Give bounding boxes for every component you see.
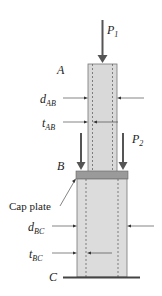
- dim-dab-right-arrowhead: [117, 97, 121, 100]
- label-tbc: tBC: [29, 248, 43, 265]
- dim-dbc-left-arrowhead: [73, 225, 77, 228]
- label-a-text: A: [57, 63, 64, 77]
- label-c-text: C: [49, 270, 57, 284]
- load-p1-arrowhead: [98, 55, 108, 63]
- load-p2-left-arrowhead: [77, 162, 86, 170]
- label-a: A: [57, 64, 64, 76]
- label-b-text: B: [57, 159, 64, 173]
- label-p1: P1: [107, 24, 118, 41]
- load-p2-right-arrowhead: [119, 162, 128, 170]
- cap-plate: [76, 171, 128, 179]
- cap-plate-leader-arrowhead: [72, 179, 76, 184]
- cap-plate-leader: [60, 180, 75, 206]
- label-tab-sub: AB: [45, 123, 55, 132]
- label-p1-sub: 1: [114, 30, 118, 39]
- label-c: C: [49, 271, 57, 283]
- label-dbc-sub: BC: [34, 227, 44, 236]
- label-cap-plate-text: Cap plate: [9, 200, 51, 212]
- label-p2: P2: [132, 133, 143, 150]
- dim-dbc-right-arrowhead: [127, 225, 131, 228]
- tube-bc: [77, 179, 127, 277]
- dim-tbc-left-arrowhead: [73, 252, 77, 255]
- label-dbc: dBC: [28, 221, 44, 238]
- label-p2-sub: 2: [139, 139, 143, 148]
- label-cap-plate: Cap plate: [9, 201, 51, 212]
- dim-dab-left-arrowhead: [84, 97, 88, 100]
- label-dab: dAB: [40, 93, 56, 110]
- label-b: B: [57, 160, 64, 172]
- dim-tab-left-arrowhead: [84, 121, 88, 124]
- label-tab: tAB: [42, 117, 55, 134]
- label-tbc-sub: BC: [32, 254, 42, 263]
- label-dab-sub: AB: [46, 99, 56, 108]
